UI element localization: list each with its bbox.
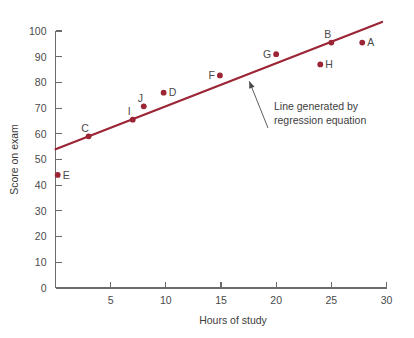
y-tick-label: 80 xyxy=(35,76,47,88)
data-point-label-d: D xyxy=(169,86,177,98)
x-tick-label: 20 xyxy=(270,294,282,306)
y-tick-label: 20 xyxy=(35,230,47,242)
chart-canvas: 0102030405060708090100 51015202530 Score… xyxy=(0,0,414,338)
y-tick-label: 0 xyxy=(41,282,47,294)
x-axis-ticks: 51015202530 xyxy=(108,282,393,306)
annotation-arrowhead-icon xyxy=(249,81,254,89)
regression-annotation: Line generated by regression equation xyxy=(249,81,366,128)
annotation-line-1: Line generated by xyxy=(274,100,359,112)
x-tick-label: 30 xyxy=(381,294,393,306)
data-point-label-f: F xyxy=(208,69,214,81)
data-point-label-c: C xyxy=(81,122,89,134)
x-tick-label: 25 xyxy=(325,294,337,306)
y-tick-label: 60 xyxy=(35,128,47,140)
axes-group xyxy=(56,31,387,288)
y-axis-title: Score on exam xyxy=(8,124,20,195)
data-point-c xyxy=(86,133,92,139)
x-tick-label: 5 xyxy=(108,294,114,306)
data-point-d xyxy=(161,90,167,96)
data-point-label-e: E xyxy=(63,169,70,181)
data-point-label-j: J xyxy=(138,92,143,104)
x-tick-label: 10 xyxy=(160,294,172,306)
data-point-f xyxy=(217,73,223,79)
data-point-label-g: G xyxy=(263,48,271,60)
data-point-e xyxy=(55,172,61,178)
y-tick-label: 50 xyxy=(35,153,47,165)
y-tick-label: 90 xyxy=(35,51,47,63)
data-point-a xyxy=(359,40,365,46)
data-point-label-a: A xyxy=(367,36,374,48)
data-point-label-i: I xyxy=(128,105,131,117)
data-point-i xyxy=(130,117,136,123)
x-axis-title: Hours of study xyxy=(199,314,267,326)
scatter-chart-figure: 0102030405060708090100 51015202530 Score… xyxy=(0,0,414,338)
data-point-b xyxy=(328,40,334,46)
x-tick-label: 15 xyxy=(215,294,227,306)
data-point-h xyxy=(317,62,323,68)
annotation-arrow-line xyxy=(249,81,268,128)
y-tick-label: 30 xyxy=(35,205,47,217)
y-tick-label: 40 xyxy=(35,179,47,191)
data-point-label-h: H xyxy=(325,58,333,70)
annotation-line-2: regression equation xyxy=(274,114,366,126)
y-axis-ticks: 0102030405060708090100 xyxy=(29,25,62,294)
data-point-label-b: B xyxy=(324,28,331,40)
y-tick-label: 10 xyxy=(35,256,47,268)
data-point-g xyxy=(273,51,279,57)
y-tick-label: 100 xyxy=(29,25,47,37)
y-tick-label: 70 xyxy=(35,102,47,114)
data-point-j xyxy=(141,103,147,109)
